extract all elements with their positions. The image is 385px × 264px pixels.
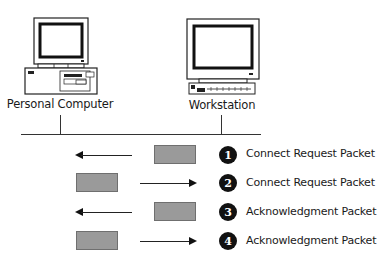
arrow-right-step-4 [140,236,197,246]
desktop-computer-icon [24,16,98,96]
arrowhead-right-icon [189,237,197,245]
personal-computer-label: Personal Computer [7,97,113,111]
step-number-2: 2 [219,174,237,192]
step-number-1: 1 [219,146,237,164]
packet-step-4 [76,231,118,250]
arrow-left-step-3 [75,207,132,217]
workstation-label: Workstation [189,98,256,112]
workstation-node [185,17,261,95]
step-number-3: 3 [219,203,237,221]
packet-step-2 [76,173,118,192]
pc-drop-line [60,115,61,135]
workstation-drop-line [221,115,222,135]
step-label-4: Acknowledgment Packet [246,234,376,247]
step-label-1: Connect Request Packet [246,147,375,160]
packet-step-1 [154,145,196,164]
step-label-3: Acknowledgment Packet [246,205,376,218]
arrowhead-right-icon [189,179,197,187]
arrow-left-step-1 [75,150,132,160]
packet-step-3 [154,202,196,221]
network-bus-line [21,134,261,135]
step-number-4: 4 [219,232,237,250]
personal-computer-node [24,16,98,96]
step-label-2: Connect Request Packet [246,176,375,189]
arrow-right-step-2 [140,178,197,188]
workstation-icon [185,17,261,95]
